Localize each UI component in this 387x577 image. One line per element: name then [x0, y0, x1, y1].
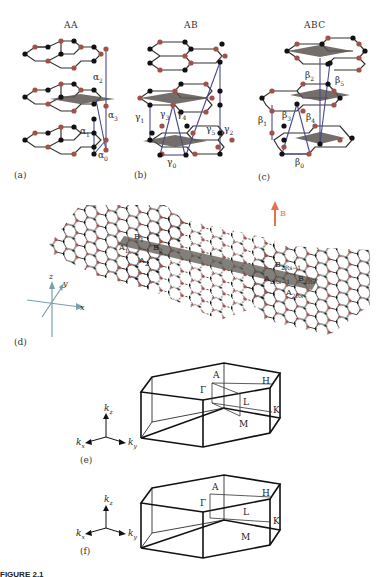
figure-caption: FIGURE 2.1	[0, 570, 44, 577]
axis-kx-label: kx	[76, 528, 85, 540]
point-Gamma: Γ	[200, 498, 206, 508]
point-L: L	[243, 507, 249, 517]
point-K: K	[273, 516, 280, 526]
panel-f-tag: (f)	[80, 546, 90, 556]
point-A: A	[212, 482, 219, 492]
axis-ky-label: ky	[128, 528, 137, 540]
brillouin-zone-f	[0, 0, 387, 577]
point-M: M	[241, 532, 250, 542]
axis-kz-label: kz	[104, 494, 113, 506]
point-H: H	[262, 488, 270, 498]
